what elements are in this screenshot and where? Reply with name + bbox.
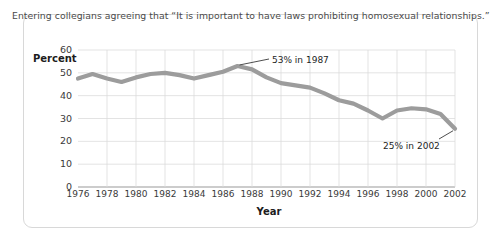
data-line <box>78 66 455 129</box>
data-line-group <box>78 66 455 129</box>
chart-svg <box>0 0 498 240</box>
plot-area: Percent Year 6050403020100 1976197819801… <box>0 0 498 240</box>
annotation-end: 25% in 2002 <box>383 141 440 151</box>
leader-line-peak <box>240 59 270 65</box>
leader-line-end <box>439 131 453 139</box>
annotation-leader-lines <box>240 59 454 139</box>
gridlines <box>78 50 455 187</box>
chart-screenshot: Entering collegians agreeing that “It is… <box>0 0 498 240</box>
annotation-peak: 53% in 1987 <box>272 55 329 65</box>
